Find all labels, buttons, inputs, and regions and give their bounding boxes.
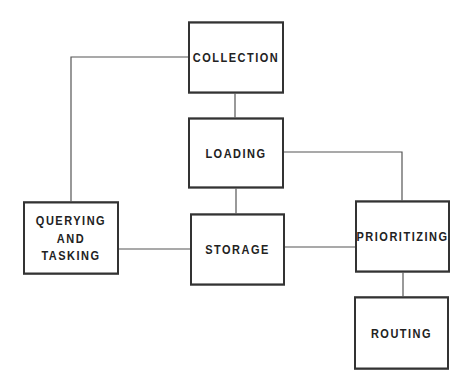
node-storage: STORAGE xyxy=(190,213,285,285)
edge-collection-querying xyxy=(71,57,188,206)
node-routing: ROUTING xyxy=(354,296,449,370)
node-prioritizing: PRIORITIZING xyxy=(355,200,450,272)
edge-loading-prioritizing xyxy=(283,152,402,205)
flow-diagram: COLLECTION LOADING QUERYING AND TASKING … xyxy=(0,0,473,381)
node-loading: LOADING xyxy=(188,117,284,188)
node-collection: COLLECTION xyxy=(188,21,284,93)
node-querying-and-tasking: QUERYING AND TASKING xyxy=(23,201,119,275)
